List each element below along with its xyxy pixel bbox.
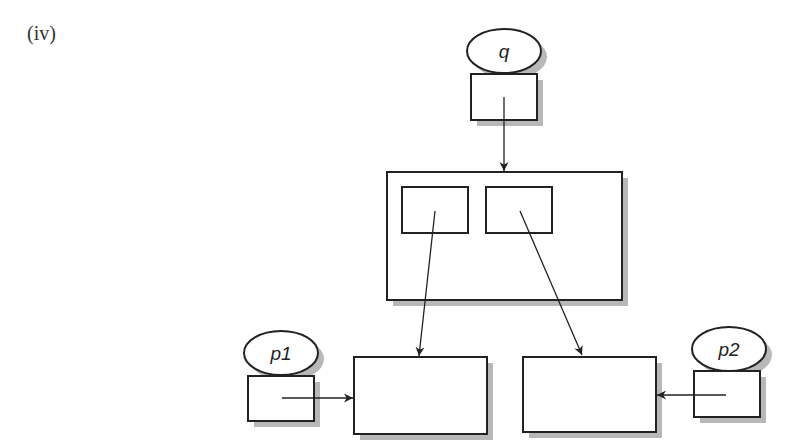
target-left-box [354,357,487,434]
q-label: q [499,41,510,62]
p1-label: p1 [269,343,291,364]
target-right-box [523,357,656,432]
pointer-diagram: q p1 p2 [0,0,785,446]
p2-box [694,371,760,417]
container-slot-left [402,187,468,233]
p2-node: p2 [692,327,772,423]
container-node [387,172,628,306]
container-slot-right [486,187,552,233]
p1-node: p1 [244,331,324,427]
target-left-node [354,357,493,440]
q-node: q [467,29,547,126]
p2-label: p2 [717,339,740,360]
target-right-node [523,357,662,438]
